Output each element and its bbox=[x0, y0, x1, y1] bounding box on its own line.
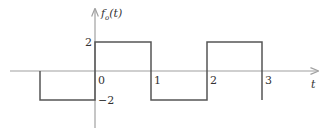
x-axis-label: t bbox=[311, 78, 316, 91]
signal-plot: fo(t) t 2 −2 0 1 2 3 bbox=[0, 0, 327, 138]
y-tick-label-2: 2 bbox=[85, 36, 92, 49]
x-tick-label-2: 2 bbox=[210, 74, 217, 87]
x-tick-label-3: 3 bbox=[265, 74, 272, 87]
y-axis-label: fo(t) bbox=[100, 7, 122, 22]
x-tick-label-1: 1 bbox=[154, 74, 161, 87]
y-tick-label-neg2: −2 bbox=[98, 94, 114, 107]
x-tick-label-0: 0 bbox=[98, 74, 105, 87]
